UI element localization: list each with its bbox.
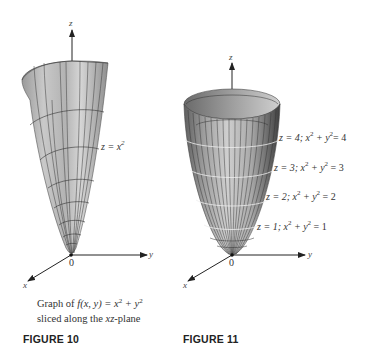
fig10-z-label: z — [69, 18, 73, 28]
fig11-x-label: x — [183, 280, 187, 290]
fig10-origin-label: 0 — [69, 257, 74, 268]
figure11-number: FIGURE 11 — [183, 333, 238, 345]
fig11-surface — [184, 104, 280, 255]
fig10-y-label: y — [149, 249, 153, 259]
fig10-surface-label: z = x2 — [101, 141, 125, 152]
fig10-x-axis — [28, 255, 71, 281]
figure10-graphic — [22, 30, 147, 281]
fig11-level-label-4: z = 4; x2 + y2= 4 — [279, 132, 346, 143]
figure10-number: FIGURE 10 — [23, 333, 79, 345]
fig11-z-label: z — [229, 52, 233, 62]
fig11-y-label: y — [308, 249, 312, 259]
fig10-caption-line2: sliced along the xz-plane — [37, 311, 143, 326]
fig10-surface-label-text: z = x — [101, 141, 121, 152]
fig11-level-label-2: z = 2; x2 + y2 = 2 — [266, 191, 336, 202]
fig11-x-axis — [188, 255, 232, 281]
fig10-caption-line1: Graph of f(x, y) = x2 + y2 — [37, 296, 143, 311]
fig11-origin-label: 0 — [229, 257, 234, 268]
fig10-caption: Graph of f(x, y) = x2 + y2 sliced along … — [37, 296, 143, 326]
fig11-level-label-1: z = 1; x2 + y2 = 1 — [257, 221, 327, 232]
fig11-level-label-3: z = 3; x2 + y2 = 3 — [274, 162, 344, 173]
fig10-x-label: x — [23, 280, 27, 290]
